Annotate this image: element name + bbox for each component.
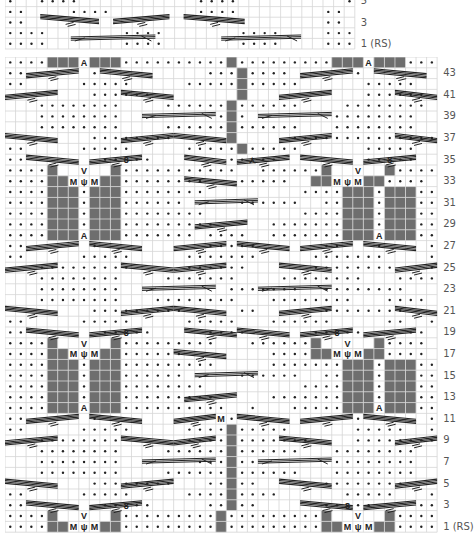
no-stitch-cell <box>353 359 364 370</box>
purl-dot <box>20 320 22 322</box>
stitch-symbol: ψ <box>344 177 351 187</box>
purl-dot <box>283 169 285 171</box>
purl-dot <box>346 461 348 463</box>
purl-dot <box>410 169 412 171</box>
purl-dot <box>378 310 380 312</box>
purl-dot <box>199 342 201 344</box>
purl-dot <box>178 234 180 236</box>
no-stitch-cell <box>47 392 58 403</box>
no-stitch-cell <box>363 381 374 392</box>
purl-dot <box>251 526 253 528</box>
purl-dot <box>9 428 11 430</box>
purl-dot <box>327 42 329 44</box>
no-stitch-cell <box>47 359 58 370</box>
purl-dot <box>83 256 85 258</box>
row-label: 1 (RS) <box>361 39 392 49</box>
purl-dot <box>378 450 380 452</box>
purl-dot <box>9 396 11 398</box>
no-stitch-cell <box>395 197 406 208</box>
purl-dot <box>41 61 43 63</box>
purl-dot <box>114 299 116 301</box>
purl-dot <box>410 115 412 117</box>
no-stitch-cell <box>406 392 417 403</box>
row-label: 37 <box>443 133 456 143</box>
purl-dot <box>294 299 296 301</box>
purl-dot <box>431 374 433 376</box>
purl-dot <box>273 299 275 301</box>
purl-dot <box>357 482 359 484</box>
purl-dot <box>273 342 275 344</box>
stitch-symbol: M <box>70 349 77 359</box>
purl-dot <box>220 148 222 150</box>
purl-dot <box>209 277 211 279</box>
purl-dot <box>9 493 11 495</box>
purl-dot <box>399 461 401 463</box>
purl-dot <box>294 374 296 376</box>
purl-dot <box>188 223 190 225</box>
purl-dot <box>20 169 22 171</box>
no-stitch-cell <box>384 219 395 230</box>
no-stitch-cell <box>363 176 374 187</box>
stitch-symbol: A <box>81 231 88 241</box>
purl-dot <box>178 472 180 474</box>
purl-dot <box>30 32 32 34</box>
purl-dot <box>220 407 222 409</box>
purl-dot <box>367 266 369 268</box>
purl-dot <box>357 72 359 74</box>
purl-dot <box>83 148 85 150</box>
purl-dot <box>188 126 190 128</box>
no-stitch-cell <box>395 403 406 414</box>
purl-dot <box>20 428 22 430</box>
no-stitch-cell <box>363 349 374 360</box>
purl-dot <box>41 472 43 474</box>
purl-dot <box>410 61 412 63</box>
purl-dot <box>230 72 232 74</box>
purl-dot <box>167 126 169 128</box>
purl-dot <box>338 32 340 34</box>
row-label: 27 <box>443 241 456 251</box>
purl-dot <box>230 266 232 268</box>
purl-dot <box>241 180 243 182</box>
purl-dot <box>41 342 43 344</box>
purl-dot <box>336 461 338 463</box>
no-stitch-cell <box>47 370 58 381</box>
purl-dot <box>378 396 380 398</box>
purl-dot <box>157 353 159 355</box>
row-label: 23 <box>443 284 456 294</box>
no-stitch-cell <box>363 230 374 241</box>
purl-dot <box>93 83 95 85</box>
purl-dot <box>388 126 390 128</box>
no-stitch-cell <box>110 208 121 219</box>
no-stitch-cell <box>68 381 79 392</box>
purl-dot <box>9 407 11 409</box>
purl-dot <box>232 0 234 2</box>
purl-dot <box>72 472 74 474</box>
purl-dot <box>72 439 74 441</box>
purl-dot <box>9 180 11 182</box>
no-stitch-cell <box>226 500 237 511</box>
purl-dot <box>273 83 275 85</box>
purl-dot <box>388 180 390 182</box>
purl-dot <box>230 515 232 517</box>
purl-dot <box>20 158 22 160</box>
no-stitch-cell <box>237 143 248 154</box>
purl-dot <box>41 353 43 355</box>
purl-dot <box>273 202 275 204</box>
purl-dot <box>83 11 85 13</box>
purl-dot <box>199 472 201 474</box>
no-stitch-cell <box>321 349 332 360</box>
purl-dot <box>20 396 22 398</box>
purl-dot <box>346 256 348 258</box>
purl-dot <box>399 277 401 279</box>
purl-dot <box>146 191 148 193</box>
purl-dot <box>188 320 190 322</box>
purl-dot <box>220 115 222 117</box>
purl-dot <box>20 515 22 517</box>
purl-dot <box>241 428 243 430</box>
purl-dot <box>251 126 253 128</box>
purl-dot <box>157 180 159 182</box>
purl-dot <box>9 245 11 247</box>
purl-dot <box>325 320 327 322</box>
purl-dot <box>104 493 106 495</box>
purl-dot <box>136 191 138 193</box>
